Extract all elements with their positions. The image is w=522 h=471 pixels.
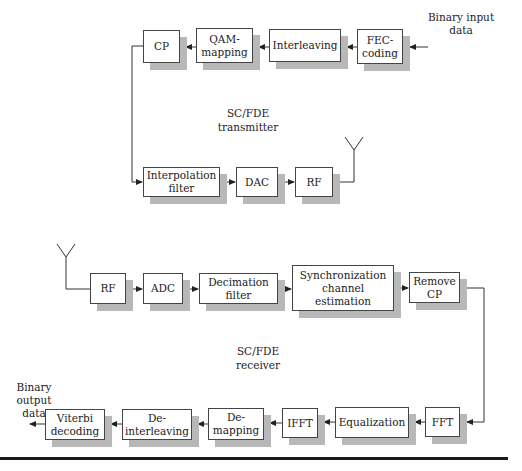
block-qam-mapping: QAM- mapping	[196, 28, 253, 63]
bottom-rule	[0, 457, 508, 460]
binary-input-label: Binary input data	[400, 11, 522, 37]
block-ifft: IFFT	[282, 408, 318, 438]
transmitter-title: SC/FDE transmitter	[198, 106, 298, 134]
block-interpolation-filter: Interpolation filter	[143, 167, 220, 197]
block-dac: DAC	[236, 167, 278, 197]
block-fft: FFT	[425, 407, 460, 437]
block-decimation-filter: Decimation filter	[199, 273, 278, 304]
block-sync-channel-estimation: Synchronization channel estimation	[292, 265, 394, 311]
block-tx-rf: RF	[295, 167, 333, 197]
block-de-interleaving: De- interleaving	[122, 409, 192, 440]
block-equalization: Equalization	[335, 407, 409, 438]
block-fec-coding: FEC- coding	[357, 29, 403, 64]
block-viterbi-decoding: Viterbi decoding	[45, 409, 105, 440]
block-rx-rf: RF	[90, 273, 126, 304]
block-interleaving: Interleaving	[269, 29, 341, 62]
receiver-title: SC/FDE receiver	[208, 344, 308, 372]
block-cp: CP	[143, 30, 180, 63]
block-adc: ADC	[143, 273, 183, 304]
block-remove-cp: Remove CP	[409, 272, 460, 303]
connection-wires	[0, 0, 522, 471]
binary-output-label: Binary output data	[14, 381, 54, 420]
block-de-mapping: De- mapping	[208, 408, 264, 440]
